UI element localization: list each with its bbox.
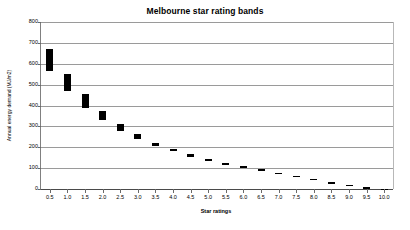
gridline	[41, 85, 393, 86]
y-tick-mark	[38, 147, 41, 148]
y-tick-label: 300	[4, 124, 38, 129]
bar-band	[170, 149, 177, 152]
y-tick-mark	[38, 126, 41, 127]
x-tick-mark	[226, 189, 227, 193]
y-tick-mark	[38, 85, 41, 86]
bar-band	[328, 182, 335, 183]
chart-container: Melbourne star rating bands Annual energ…	[0, 0, 410, 230]
bar-band	[64, 74, 71, 91]
x-tick-mark	[384, 189, 385, 193]
bar-band	[152, 143, 159, 147]
y-tick-mark	[38, 22, 41, 23]
y-tick-label: 0	[4, 186, 38, 192]
x-axis-title: Star ratings	[40, 208, 392, 214]
bar-band	[310, 179, 317, 181]
y-tick-label: 600	[4, 61, 38, 67]
gridline	[41, 147, 393, 148]
bar-band	[117, 124, 124, 130]
bar-band	[205, 159, 212, 161]
x-tick-mark	[331, 189, 332, 193]
bar-band	[346, 185, 353, 186]
bar-band	[293, 176, 300, 178]
gridline	[41, 43, 393, 44]
x-tick-label: 10.0	[372, 195, 396, 201]
y-tick-mark	[38, 43, 41, 44]
gridline	[41, 126, 393, 127]
bar-band	[275, 173, 282, 175]
x-tick-mark	[50, 189, 51, 193]
x-tick-mark	[67, 189, 68, 193]
x-tick-mark	[120, 189, 121, 193]
y-tick-label: 700	[4, 40, 38, 46]
x-tick-mark	[367, 189, 368, 193]
y-tick-label: 500	[4, 82, 38, 88]
y-tick-label: 100	[4, 166, 38, 172]
bar-band	[99, 111, 106, 120]
x-tick-mark	[191, 189, 192, 193]
y-tick-label: 200	[4, 145, 38, 151]
x-tick-mark	[314, 189, 315, 193]
x-tick-mark	[103, 189, 104, 193]
plot-area: 01002003004005006007008000.51.01.52.02.5…	[40, 22, 394, 189]
chart-title: Melbourne star rating bands	[0, 6, 410, 16]
bar-band	[134, 134, 141, 139]
gridline	[41, 106, 393, 107]
y-tick-mark	[38, 106, 41, 107]
x-tick-mark	[85, 189, 86, 193]
bar-band	[82, 94, 89, 108]
y-tick-mark	[38, 189, 41, 190]
y-tick-label: 400	[4, 103, 38, 109]
bar-band	[240, 166, 247, 168]
bar-band	[258, 169, 265, 171]
x-tick-mark	[243, 189, 244, 193]
gridline	[41, 64, 393, 65]
x-axis-line	[41, 189, 393, 190]
x-tick-mark	[173, 189, 174, 193]
y-tick-mark	[38, 64, 41, 65]
x-tick-mark	[349, 189, 350, 193]
x-tick-mark	[155, 189, 156, 193]
x-tick-mark	[208, 189, 209, 193]
bar-band	[46, 49, 53, 71]
y-tick-label: 800	[4, 19, 38, 25]
x-tick-mark	[296, 189, 297, 193]
gridline	[41, 168, 393, 169]
x-tick-mark	[261, 189, 262, 193]
gridline	[41, 22, 393, 23]
y-tick-mark	[38, 168, 41, 169]
x-tick-mark	[138, 189, 139, 193]
x-tick-mark	[279, 189, 280, 193]
bar-band	[187, 154, 194, 156]
bar-band	[222, 163, 229, 165]
